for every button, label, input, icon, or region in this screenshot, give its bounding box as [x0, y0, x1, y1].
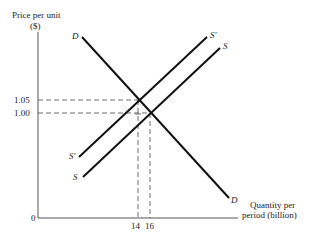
supply-shifted-label-bottom: S': [69, 151, 75, 161]
y-axis-unit: ($): [30, 21, 41, 31]
y-axis-label: Price per unit: [12, 10, 61, 20]
x-axis-label-line1: Quantity per: [250, 200, 295, 210]
origin-label: 0: [31, 213, 36, 223]
demand-label-bottom: D: [231, 195, 238, 205]
supply-curve: [83, 48, 220, 177]
y-tick-1-00: 1.00: [14, 108, 30, 118]
y-tick-1-05: 1.05: [14, 95, 30, 105]
x-axis-label-line2: period (billion): [242, 210, 297, 220]
x-tick-16: 16: [145, 221, 154, 231]
supply-label-top: S: [223, 41, 228, 51]
supply-label-bottom: S: [73, 172, 78, 182]
demand-label-top: D: [72, 31, 79, 41]
x-tick-14: 14: [131, 221, 140, 231]
supply-shifted-label-top: S': [210, 30, 216, 40]
guide-lines: [38, 100, 150, 218]
